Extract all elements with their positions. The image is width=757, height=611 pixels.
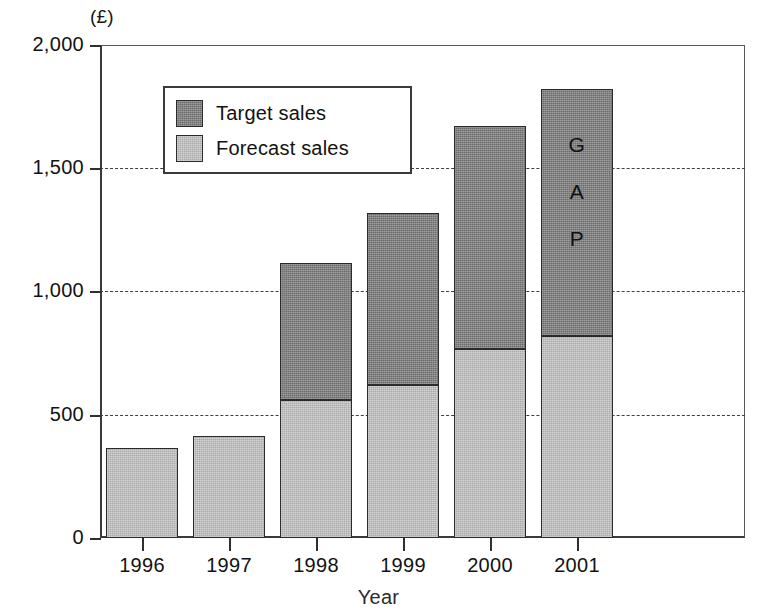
y-tick-0 <box>90 538 101 540</box>
bar-group-1998[interactable] <box>280 263 352 538</box>
bar-segment-target-1999[interactable] <box>367 213 439 385</box>
x-tick-2001 <box>577 538 579 551</box>
y-axis-label-2000: 2,000 <box>2 33 84 56</box>
bar-segment-target-2000[interactable] <box>454 126 526 349</box>
legend-swatch-target-icon <box>176 100 203 127</box>
bar-group-1997[interactable] <box>193 436 265 538</box>
x-tick-1999 <box>403 538 405 551</box>
x-tick-2000 <box>490 538 492 551</box>
legend-label-target-sales: Target sales <box>216 102 326 125</box>
x-axis-title: Year <box>0 586 757 609</box>
bar-segment-forecast-1996[interactable] <box>106 448 178 538</box>
x-tick-1997 <box>229 538 231 551</box>
y-axis-label-500: 500 <box>2 403 84 426</box>
legend-label-forecast-sales: Forecast sales <box>216 137 349 160</box>
y-axis-label-0: 0 <box>2 526 84 549</box>
bar-group-2001[interactable]: G A P <box>541 89 613 538</box>
y-axis-label-1500: 1,500 <box>2 156 84 179</box>
bar-segment-forecast-1997[interactable] <box>193 436 265 538</box>
gap-annotation: G A P <box>542 134 612 249</box>
gap-letter-a: A <box>570 181 585 202</box>
bar-segment-forecast-1998[interactable] <box>280 400 352 538</box>
bar-segment-forecast-2001[interactable] <box>541 336 613 538</box>
legend-swatch-forecast-icon <box>176 135 203 162</box>
bar-group-1999[interactable] <box>367 213 439 538</box>
x-tick-1996 <box>142 538 144 551</box>
x-axis-label-2001: 2001 <box>522 554 632 577</box>
bar-segment-target-1998[interactable] <box>280 263 352 400</box>
bar-segment-forecast-2000[interactable] <box>454 349 526 538</box>
bar-chart: (£) 2,000 1,500 1,000 500 0 <box>0 0 757 611</box>
x-tick-1998 <box>316 538 318 551</box>
gap-letter-g: G <box>569 134 586 155</box>
bar-segment-target-2001[interactable]: G A P <box>541 89 613 336</box>
legend: Target sales Forecast sales <box>163 86 412 174</box>
y-axis-label-1000: 1,000 <box>2 279 84 302</box>
y-axis-unit-label: (£) <box>90 6 114 28</box>
bar-group-1996[interactable] <box>106 448 178 538</box>
legend-entry-target-sales[interactable]: Target sales <box>176 96 410 131</box>
gap-letter-p: P <box>570 228 585 249</box>
bar-segment-forecast-1999[interactable] <box>367 385 439 538</box>
bar-group-2000[interactable] <box>454 126 526 538</box>
legend-entry-forecast-sales[interactable]: Forecast sales <box>176 131 410 166</box>
